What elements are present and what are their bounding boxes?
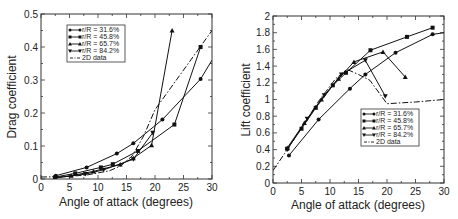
triangle-down-marker	[363, 58, 368, 63]
square-marker	[172, 123, 176, 127]
circle-marker	[394, 51, 398, 55]
x-tick-label: 15	[121, 182, 133, 193]
square-marker	[405, 35, 409, 39]
circle-marker	[363, 72, 367, 76]
circle-marker	[160, 118, 164, 122]
square-marker	[69, 36, 72, 39]
y-tick-label: 1.2	[256, 77, 270, 88]
y-tick-label: 0.3	[24, 75, 38, 86]
y-axis-label: Lift coefficient	[239, 63, 253, 137]
y-tick-label: 0.4	[256, 144, 270, 155]
y-tick-label: 1.6	[256, 44, 270, 55]
y-tick-label: 0.1	[24, 141, 38, 152]
x-tick-label: 10	[324, 186, 336, 197]
series-line	[55, 47, 200, 177]
y-tick-label: 0	[32, 174, 38, 185]
y-tick-label: 2	[264, 11, 270, 22]
legend: r/R = 31.6%r/R = 45.8%r/R = 65.7%r/R = 8…	[361, 109, 419, 146]
legend: r/R = 31.6%r/R = 45.8%r/R = 65.7%r/R = 8…	[67, 25, 125, 62]
x-tick-label: 0	[270, 186, 276, 197]
legend-entry: r/R = 84.2%	[376, 131, 413, 138]
x-tick-label: 20	[381, 186, 393, 197]
x-tick-label: 0	[38, 182, 44, 193]
x-tick-label: 10	[92, 182, 104, 193]
y-tick-label: 0.5	[24, 9, 38, 20]
triangle-down-marker	[383, 94, 388, 99]
x-tick-label: 30	[206, 182, 218, 193]
circle-marker	[199, 77, 203, 81]
x-axis-label: Angle of attack (degrees)	[59, 195, 193, 209]
triangle-up-marker	[170, 28, 175, 33]
circle-marker	[317, 118, 321, 122]
circle-marker	[69, 29, 72, 32]
plot-area: 05101520253000.20.40.60.811.21.41.61.82	[256, 11, 450, 198]
legend-entry: r/R = 45.8%	[376, 117, 413, 124]
legend-entry: r/R = 84.2%	[82, 47, 119, 54]
circle-marker	[115, 152, 119, 156]
square-marker	[368, 48, 372, 52]
legend-entry: 2D data	[82, 54, 107, 61]
lift-coefficient-chart: 05101520253000.20.40.60.811.21.41.61.82 …	[239, 11, 450, 213]
y-tick-label: 1	[264, 94, 270, 105]
figure: 05101520253000.10.20.30.40.5 r/R = 31.6%…	[0, 0, 458, 219]
y-tick-label: 0.2	[24, 108, 38, 119]
y-tick-label: 0.4	[24, 42, 38, 53]
triangle-up-marker	[381, 49, 386, 54]
y-tick-label: 0.8	[256, 111, 270, 122]
legend-entry: r/R = 31.6%	[82, 26, 119, 33]
triangle-up-marker	[149, 143, 154, 148]
circle-marker	[363, 113, 366, 116]
x-tick-label: 20	[149, 182, 161, 193]
x-tick-label: 25	[410, 186, 422, 197]
legend-entry: r/R = 65.7%	[82, 40, 119, 47]
x-tick-label: 15	[353, 186, 365, 197]
legend-entry: 2D data	[376, 138, 401, 145]
y-tick-label: 1.4	[256, 61, 270, 72]
y-tick-label: 0	[264, 178, 270, 189]
x-axis-label: Angle of attack (degrees)	[291, 198, 425, 212]
square-marker	[363, 120, 366, 123]
x-tick-label: 25	[178, 182, 190, 193]
legend-entry: r/R = 45.8%	[82, 33, 119, 40]
circle-marker	[85, 165, 89, 169]
y-tick-label: 0.6	[256, 127, 270, 138]
y-tick-label: 1.8	[256, 27, 270, 38]
y-tick-label: 0.2	[256, 161, 270, 172]
square-marker	[431, 26, 435, 30]
legend-entry: r/R = 31.6%	[376, 110, 413, 117]
x-tick-label: 5	[299, 186, 305, 197]
drag-coefficient-chart: 05101520253000.10.20.30.40.5 r/R = 31.6%…	[5, 9, 218, 210]
legend-entry: r/R = 65.7%	[376, 124, 413, 131]
y-axis-label: Drag coefficient	[5, 55, 19, 139]
x-tick-label: 30	[438, 186, 450, 197]
circle-marker	[348, 87, 352, 91]
circle-marker	[131, 141, 135, 145]
circle-marker	[287, 153, 291, 157]
x-tick-label: 5	[67, 182, 73, 193]
circle-marker	[431, 32, 435, 36]
